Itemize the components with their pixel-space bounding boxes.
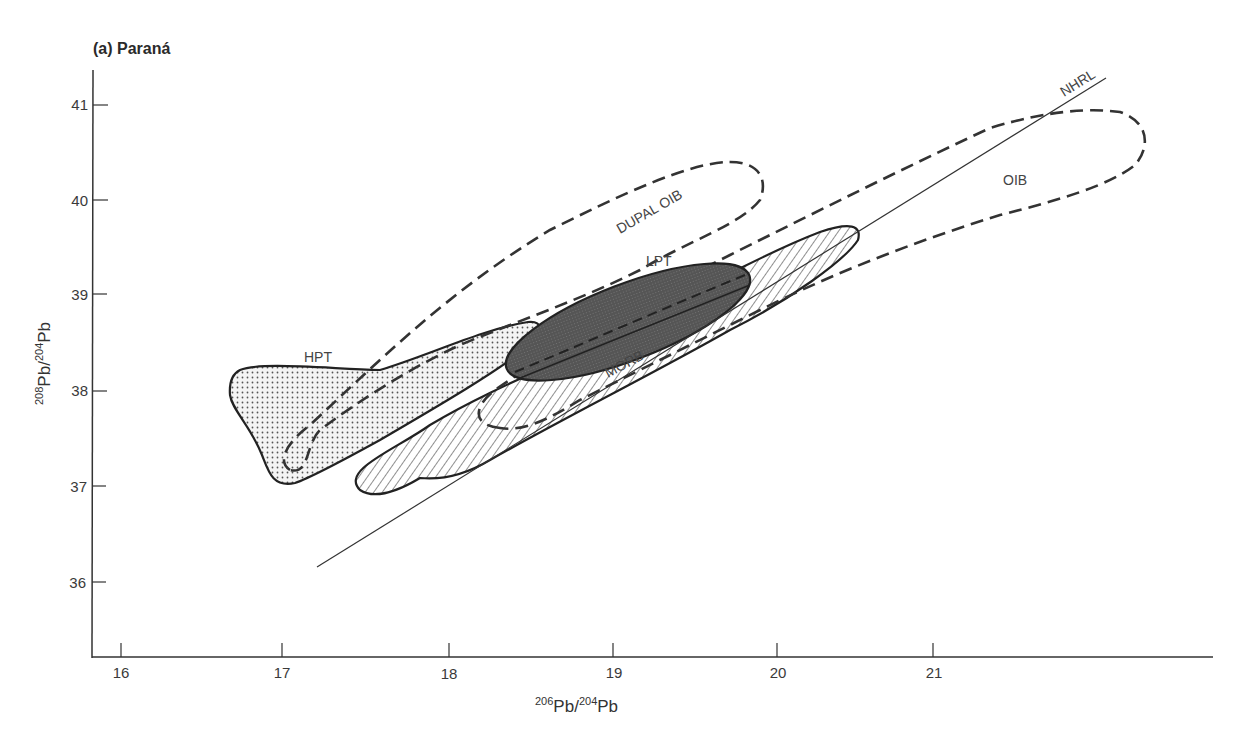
x-axis: 16 17 18 19 20 21 (92, 643, 1213, 682)
x-tick-19: 19 (606, 664, 623, 681)
y-tick-40: 40 (71, 192, 88, 209)
x-tick-18: 18 (441, 665, 458, 682)
x-tick-16: 16 (113, 664, 130, 681)
y-axis: 41 40 39 38 37 36 (69, 70, 108, 658)
hpt-label: HPT (304, 349, 332, 365)
x-axis-title: 206Pb/204Pb (535, 695, 618, 716)
y-tick-36: 36 (69, 574, 86, 591)
nhrl-label: NHRL (1057, 66, 1098, 100)
lpt-label: LPT (646, 253, 672, 269)
isotope-plot: 41 40 39 38 37 36 16 17 18 19 20 21 206P… (0, 0, 1246, 743)
y-tick-39: 39 (71, 286, 88, 303)
y-tick-37: 37 (70, 478, 87, 495)
x-tick-20: 20 (770, 664, 787, 681)
nhrl-line (317, 78, 1106, 567)
x-tick-21: 21 (926, 664, 943, 681)
y-tick-38: 38 (71, 382, 88, 399)
y-axis-title: 208Pb/204Pb (33, 322, 54, 405)
x-tick-17: 17 (274, 664, 291, 681)
oib-label: OIB (1003, 172, 1027, 188)
y-tick-41: 41 (71, 96, 88, 113)
